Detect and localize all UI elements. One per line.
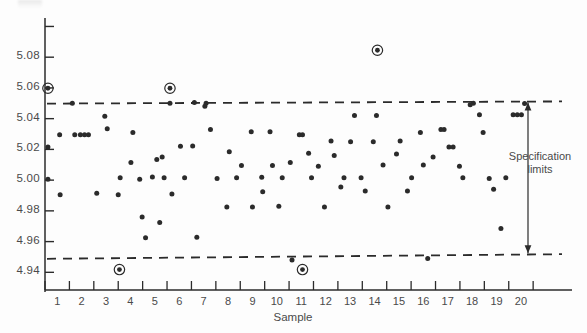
y-axis-tick-label: 5.08 [0,49,40,61]
outlier-data-point [117,267,122,272]
data-point [306,151,311,156]
data-point [394,152,399,157]
data-point [167,101,172,106]
data-point [348,139,353,144]
data-point [192,100,197,105]
data-point [288,160,293,165]
data-point [371,139,376,144]
x-axis-title: Sample [238,311,348,323]
data-point [94,191,99,196]
data-point [162,175,167,180]
y-axis-tick-label: 4.96 [0,234,40,246]
x-axis-tick-label: 20 [506,295,536,307]
data-point [316,164,321,169]
data-point [130,130,135,135]
data-point [194,235,199,240]
data-point [477,112,482,117]
y-axis-tick-label: 5.02 [0,141,40,153]
data-point [128,160,133,165]
data-point [381,163,386,168]
data-point [431,155,436,160]
y-axis-tick-label: 5.06 [0,80,40,92]
spec-limits-arrowhead-down [525,245,532,253]
data-point [487,176,492,181]
data-point [105,126,110,131]
data-point [154,157,159,162]
data-point [471,101,476,106]
data-point [398,138,403,143]
data-point [309,175,314,180]
data-point [409,175,414,180]
data-point [322,205,327,210]
data-point [481,130,486,135]
data-point [190,144,195,149]
y-axis-tick-label: 5.04 [0,111,40,123]
data-point [208,127,213,132]
data-point [290,258,295,263]
data-point [332,153,337,158]
data-point [451,145,456,150]
spec-limits-line-1: Specification [509,150,571,162]
data-point [329,138,334,143]
data-point [116,192,121,197]
data-point [224,205,229,210]
data-point [234,175,239,180]
data-point [405,188,410,193]
data-point [70,101,75,106]
data-point [503,175,508,180]
outlier-data-point [46,86,51,91]
data-point [140,215,145,220]
data-point [169,191,174,196]
data-point [457,164,462,169]
data-point [215,176,220,181]
data-point [58,192,63,197]
data-point [227,149,232,154]
data-point [374,113,379,118]
data-point [425,256,430,261]
data-point [280,175,285,180]
spec-limits-line-2: limits [527,163,552,175]
data-point [460,175,465,180]
data-point [522,101,527,106]
data-point [491,187,496,192]
figure-canvas: 4.944.964.985.005.025.045.065.08 1234567… [0,0,587,333]
data-point [418,130,423,135]
outlier-data-point [300,267,305,272]
data-point [352,113,357,118]
data-point [341,175,346,180]
specification-limits-annotation: Specification limits [495,150,585,176]
data-point [442,127,447,132]
data-point [268,129,273,134]
data-point [118,175,123,180]
data-point [57,132,62,137]
data-point [182,175,187,180]
data-point [363,188,368,193]
data-point [270,163,275,168]
data-point [359,175,364,180]
data-point [498,226,503,231]
lower-specification-limit [47,254,562,259]
data-point [519,112,524,117]
data-point [157,220,162,225]
data-point [421,163,426,168]
data-point [137,177,142,182]
y-axis-tick-label: 4.94 [0,264,40,276]
data-point [250,205,255,210]
data-point [204,101,209,106]
y-axis-tick-label: 5.00 [0,172,40,184]
upper-specification-limit [47,101,562,103]
data-point [143,235,148,240]
data-point [300,132,305,137]
data-point [338,185,343,190]
data-point [86,132,91,137]
data-point [276,204,281,209]
outlier-data-point [375,48,380,53]
data-point [150,175,155,180]
data-point [160,155,165,160]
data-point [260,189,265,194]
data-point [385,205,390,210]
data-point [45,177,50,182]
data-point [178,144,183,149]
y-axis-tick-label: 4.98 [0,203,40,215]
data-point [45,145,50,150]
